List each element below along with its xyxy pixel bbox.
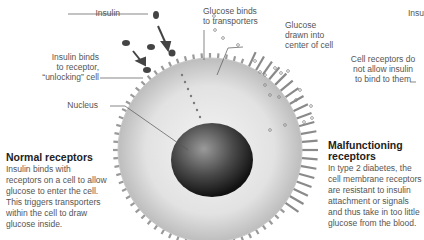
normal-receptors-body: Insulin binds withreceptors on a cell to… xyxy=(6,164,107,230)
nucleus-shape xyxy=(171,123,253,197)
normal-receptors-heading: Normal receptors xyxy=(6,152,93,163)
label-nucleus: Nucleus xyxy=(40,100,98,110)
label-insulin-binds: Insulin bindsto receptor,“unlocking” cel… xyxy=(30,52,99,82)
malfunctioning-receptors-heading: Malfunctioningreceptors xyxy=(328,140,403,162)
label-insulin-right: Insu xyxy=(408,8,424,18)
label-glucose-binds: Glucose bindsto transporters xyxy=(203,6,258,26)
label-glucose-drawn: Glucosedrawn intocenter of cell xyxy=(285,20,333,50)
malfunctioning-receptors-body: In type 2 diabetes, thecell membrane rec… xyxy=(328,163,422,229)
label-insulin: Insulin xyxy=(60,8,120,18)
label-receptors-block: Cell receptors donot allow insulinto bin… xyxy=(344,54,422,84)
